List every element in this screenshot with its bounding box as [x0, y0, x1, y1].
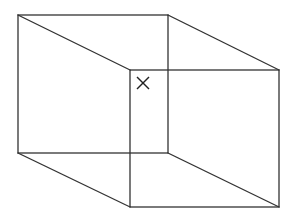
- connector-edge-4: [168, 153, 279, 207]
- back-face: [18, 15, 168, 153]
- connector-edge-3: [18, 153, 130, 207]
- front-face: [130, 70, 279, 207]
- connector-edge-1: [18, 15, 130, 70]
- necker-cube-diagram: [0, 0, 294, 221]
- x-mark-icon: [137, 77, 149, 89]
- connector-edge-2: [168, 15, 279, 70]
- connector-edges: [18, 15, 279, 207]
